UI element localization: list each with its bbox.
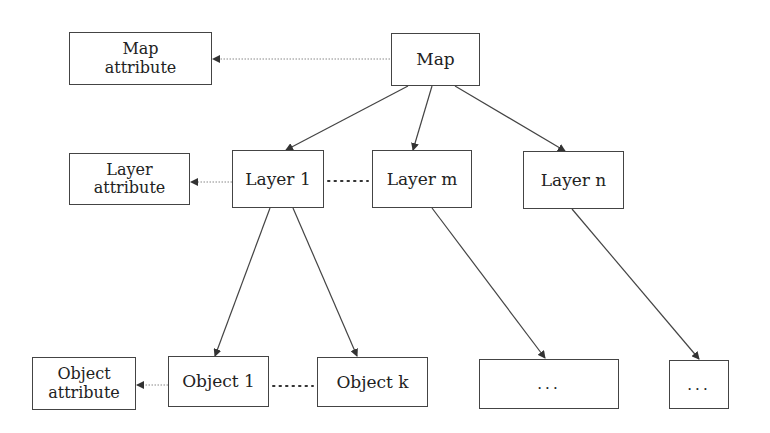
- node-layer-n-label: Layer n: [541, 170, 607, 190]
- node-map-attribute[interactable]: Map attribute: [69, 32, 212, 85]
- edge-layer-m-to-children: [432, 208, 545, 358]
- edge-map-to-layer-m: [413, 86, 432, 150]
- edge-layer1-to-object-k: [293, 208, 357, 356]
- node-object-attribute[interactable]: Object attribute: [32, 357, 136, 410]
- node-layer1[interactable]: Layer 1: [232, 150, 324, 208]
- node-object-attribute-line1: Object: [57, 365, 110, 383]
- edge-map-to-layer1: [286, 86, 408, 150]
- diagram-canvas: Map Map attribute Layer 1 Layer m Layer …: [0, 0, 770, 433]
- node-children-n[interactable]: ...: [669, 360, 729, 409]
- node-map[interactable]: Map: [391, 33, 480, 86]
- node-layer-m[interactable]: Layer m: [372, 150, 472, 208]
- edge-layer-n-to-children: [572, 209, 699, 359]
- node-children-m-label: ...: [537, 375, 560, 393]
- node-layer-attribute-line1: Layer: [106, 161, 152, 179]
- node-layer1-label: Layer 1: [245, 169, 310, 189]
- node-layer-m-label: Layer m: [387, 169, 458, 189]
- node-object-k-label: Object k: [336, 372, 408, 392]
- edge-layer1-to-object1: [215, 208, 270, 356]
- node-children-n-label: ...: [687, 376, 710, 394]
- edge-map-to-layer-n: [455, 86, 565, 151]
- node-layer-n[interactable]: Layer n: [523, 151, 624, 209]
- node-layer-attribute[interactable]: Layer attribute: [69, 153, 190, 205]
- node-object-attribute-line2: attribute: [48, 384, 120, 402]
- node-map-label: Map: [416, 49, 454, 69]
- node-map-attribute-line2: attribute: [105, 59, 177, 77]
- node-map-attribute-line1: Map: [122, 40, 158, 58]
- node-object1-label: Object 1: [182, 371, 255, 391]
- node-object1[interactable]: Object 1: [168, 356, 269, 407]
- node-layer-attribute-line2: attribute: [94, 179, 166, 197]
- node-children-m[interactable]: ...: [479, 359, 619, 409]
- node-object-k[interactable]: Object k: [317, 357, 428, 407]
